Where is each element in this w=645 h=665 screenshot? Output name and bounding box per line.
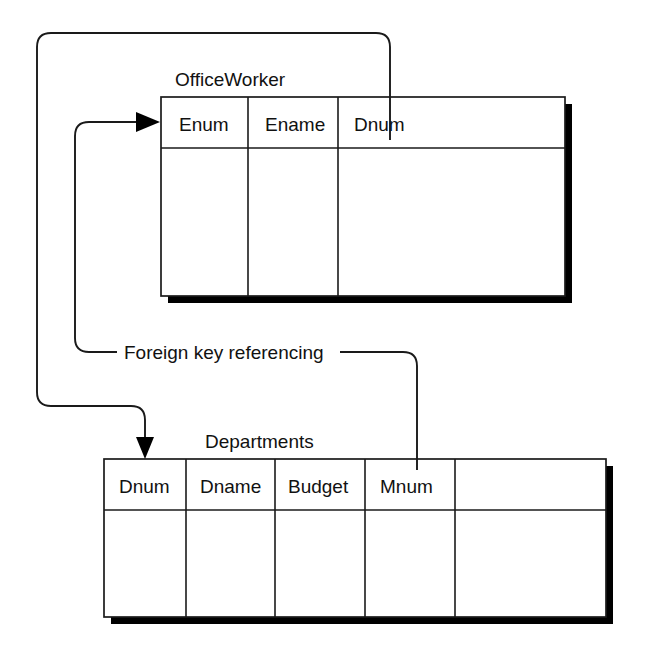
departments-column-dname: Dname xyxy=(200,476,261,497)
mnum-fk-connector-left xyxy=(75,122,138,352)
departments-column-budget: Budget xyxy=(288,476,349,497)
foreign-key-label: Foreign key referencing xyxy=(124,342,324,363)
departments-column-mnum: Mnum xyxy=(380,476,433,497)
officeworker-column-dnum: Dnum xyxy=(354,114,405,135)
er-diagram: OfficeWorker Enum Ename Dnum Departments… xyxy=(0,0,645,665)
departments-title: Departments xyxy=(205,431,314,452)
officeworker-title: OfficeWorker xyxy=(175,69,286,90)
table-officeworker: OfficeWorker Enum Ename Dnum xyxy=(161,69,572,303)
mnum-fk-connector-right xyxy=(340,352,417,470)
dnum-fk-arrowhead xyxy=(136,437,154,459)
departments-column-dnum: Dnum xyxy=(119,476,170,497)
mnum-fk-arrowhead xyxy=(136,112,160,132)
diagram-canvas: OfficeWorker Enum Ename Dnum Departments… xyxy=(0,0,645,665)
officeworker-column-ename: Ename xyxy=(265,114,325,135)
table-departments: Departments Dnum Dname Budget Mnum xyxy=(104,431,613,624)
officeworker-column-enum: Enum xyxy=(179,114,229,135)
departments-frame xyxy=(104,459,606,617)
